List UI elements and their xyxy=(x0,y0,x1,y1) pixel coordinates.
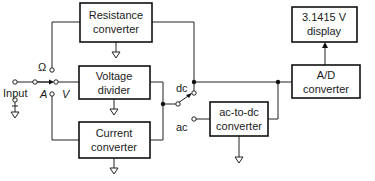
current-converter-block: Current converter xyxy=(79,122,150,158)
junction-dot xyxy=(276,80,280,84)
input-terminal-1 xyxy=(13,80,17,84)
voltage-output-wire xyxy=(150,82,163,104)
block-label: Voltage xyxy=(96,70,133,82)
resistance-output-wire xyxy=(152,22,194,82)
ad-converter-block: A/D converter xyxy=(292,65,360,98)
ac-label: ac xyxy=(176,121,188,133)
junction-dot xyxy=(192,80,196,84)
amp-terminal xyxy=(50,92,54,96)
ohm-label: Ω xyxy=(38,61,46,73)
ac-to-dc-converter-block: ac-to-dc converter xyxy=(210,102,268,136)
block-label: converter xyxy=(91,141,137,153)
block-label: converter xyxy=(303,83,349,95)
input-terminal-2 xyxy=(33,80,37,84)
function-switch-arrow-icon xyxy=(49,80,54,85)
block-label: Resistance xyxy=(89,9,143,21)
ground-icon xyxy=(11,112,19,118)
amp-label: A xyxy=(39,88,47,100)
dc-label: dc xyxy=(176,82,188,94)
ohm-terminal xyxy=(50,68,54,72)
voltage-divider-block: Voltage divider xyxy=(79,66,150,99)
block-label: converter xyxy=(93,23,139,35)
block-label: A/D xyxy=(317,69,335,81)
dc-terminal xyxy=(192,91,196,95)
display-block: 3.1415 V display xyxy=(292,7,357,42)
block-label: display xyxy=(307,25,342,37)
block-label: 3.1415 V xyxy=(302,11,347,23)
junction-dot xyxy=(161,102,165,106)
ground-icon xyxy=(110,168,118,174)
volt-label: V xyxy=(62,88,71,100)
resistance-converter-block: Resistance converter xyxy=(80,3,152,42)
ohm-wire xyxy=(52,22,80,68)
dcac-switch-pivot xyxy=(176,102,180,106)
current-output-wire xyxy=(150,104,163,140)
block-label: Current xyxy=(96,127,133,139)
acdc-output-wire xyxy=(268,82,278,119)
ground-icon xyxy=(112,52,120,58)
amp-wire xyxy=(52,96,79,140)
ad-to-display-arrow-icon xyxy=(322,42,328,48)
ac-terminal xyxy=(192,117,196,121)
block-label: ac-to-dc xyxy=(219,106,259,118)
multimeter-block-diagram: Resistance converter Voltage divider Cur… xyxy=(0,0,375,181)
block-label: converter xyxy=(216,120,262,132)
input-label: Input xyxy=(3,87,27,99)
block-label: divider xyxy=(98,84,131,96)
ground-icon xyxy=(235,157,243,163)
v-terminal xyxy=(54,80,58,84)
ground-icon xyxy=(110,109,118,115)
